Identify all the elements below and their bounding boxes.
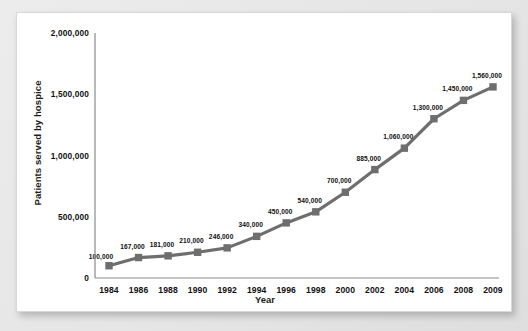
data-point-marker bbox=[312, 208, 319, 215]
data-point-marker bbox=[223, 244, 230, 251]
data-point-marker bbox=[489, 83, 496, 90]
data-point-marker bbox=[194, 249, 201, 256]
data-point-marker bbox=[164, 252, 171, 259]
data-point-marker bbox=[105, 262, 112, 269]
data-point-marker bbox=[460, 97, 467, 104]
line-chart: Patients served by hospice 0500,0001,000… bbox=[17, 13, 513, 313]
data-point-marker bbox=[401, 144, 408, 151]
data-point-marker bbox=[253, 233, 260, 240]
data-point-marker bbox=[283, 219, 290, 226]
data-point-marker bbox=[342, 189, 349, 196]
axes-group bbox=[95, 33, 499, 278]
plot-canvas bbox=[17, 13, 513, 313]
series-line bbox=[109, 87, 493, 266]
figure-card: Patients served by hospice 0500,0001,000… bbox=[16, 12, 512, 312]
series-markers bbox=[105, 83, 496, 269]
data-point-marker bbox=[430, 115, 437, 122]
data-point-marker bbox=[371, 166, 378, 173]
data-point-marker bbox=[135, 254, 142, 261]
x-axis-title: Year bbox=[17, 294, 513, 305]
